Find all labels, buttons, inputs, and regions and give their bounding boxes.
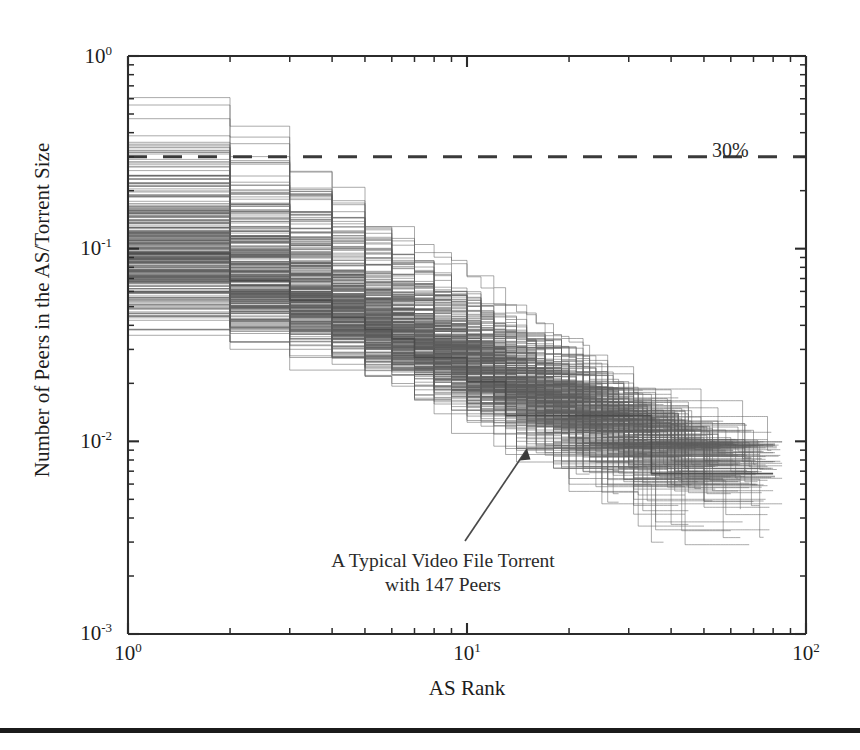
figure-container: 100 10-1 10-2 10-3 100 101 102 Number of… [0, 0, 860, 750]
y-tick-exp-1e-3: -3 [101, 620, 112, 635]
threshold-percent-label: 30% [712, 138, 749, 163]
x-tick-label-1e2: 102 [792, 643, 820, 664]
x-tick-label-1e1: 101 [453, 643, 481, 664]
x-tick-exp-1e2: 2 [813, 640, 820, 655]
x-tick-exp-1e0: 0 [135, 640, 142, 655]
chart-plot-area [0, 0, 860, 750]
x-axis-title: AS Rank [128, 676, 806, 701]
y-axis-title: Number of Peers in the AS/Torrent Size [30, 40, 60, 580]
y-tick-label-1e-3: 10-3 [46, 623, 112, 644]
y-tick-exp-1e-1: -1 [101, 235, 112, 250]
y-tick-exp-1e-2: -2 [101, 428, 112, 443]
callout-line-1: A Typical Video File Torrent [331, 550, 555, 571]
data-curves [128, 98, 782, 545]
callout-label: A Typical Video File Torrent with 147 Pe… [318, 549, 568, 598]
page-footer-rule [0, 728, 860, 733]
x-tick-label-1e0: 100 [114, 643, 142, 664]
callout-arrow [465, 449, 531, 541]
callout-line-2: with 147 Peers [318, 573, 568, 597]
x-tick-exp-1e1: 1 [474, 640, 481, 655]
y-tick-exp-1e0: 0 [106, 43, 113, 58]
